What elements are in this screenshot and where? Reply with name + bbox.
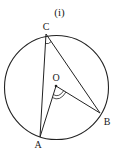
label-o: O — [52, 72, 59, 83]
label-c: C — [43, 21, 50, 32]
radius-ob — [56, 86, 100, 113]
center-point — [55, 85, 58, 88]
angle-o-arc-inner — [53, 91, 63, 96]
figure-caption: (i) — [54, 6, 65, 19]
label-b: B — [104, 116, 111, 127]
label-a: A — [34, 139, 42, 150]
diagram-figure: (i) C O A B — [0, 0, 119, 150]
circle-theorem-diagram: (i) C O A B — [0, 0, 119, 150]
angle-c-arc — [45, 42, 51, 44]
circle — [5, 36, 109, 140]
